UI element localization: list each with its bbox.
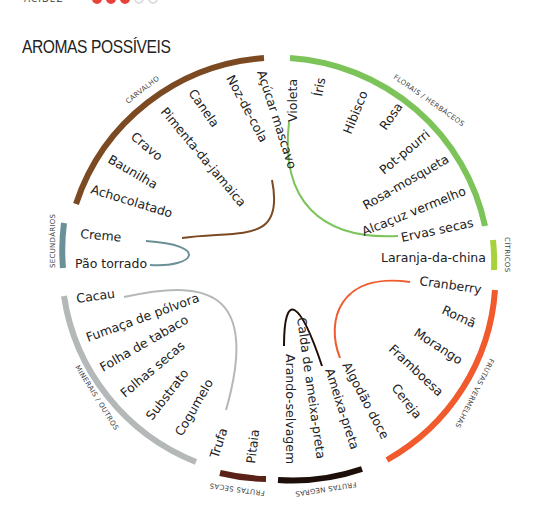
- aroma-label: Cravo: [128, 129, 166, 164]
- aroma-label: Arando-selvagem: [283, 354, 298, 464]
- aroma-label: Laranja-da-china: [381, 250, 486, 265]
- aroma-label: Cranberry: [419, 273, 484, 297]
- aroma-wheel: Açúcar mascavo Noz-de-cola Canela Piment…: [0, 0, 544, 520]
- category-label-minerais: MINERAIS / OUTROS: [73, 364, 120, 432]
- aroma-label: Pitaia: [243, 428, 262, 464]
- category-label-secundarios: SECUNDÁRIOS: [48, 213, 57, 268]
- aroma-label: Morango: [411, 325, 465, 367]
- aroma-label: Cacau: [75, 286, 116, 306]
- loop-secundarios: [146, 241, 189, 265]
- aroma-label: Cereja: [389, 381, 426, 422]
- arc-frutas-secas: [220, 473, 266, 479]
- aroma-label: Íris: [310, 76, 328, 97]
- aroma-label: Canela: [186, 86, 223, 130]
- aroma-label: Trufa: [206, 426, 230, 461]
- aroma-label: Rosa: [376, 100, 405, 133]
- aroma-label: Pão torrado: [75, 256, 147, 271]
- category-label-carvalho: CARVALHO: [124, 74, 161, 105]
- arc-frutas-negras: [278, 469, 362, 480]
- aroma-label: Creme: [80, 226, 123, 245]
- aroma-label: Violeta: [285, 79, 300, 122]
- aroma-label: Calda de ameixa-preta: [294, 316, 329, 459]
- aroma-label: Achocolatado: [89, 182, 174, 221]
- category-label-frutas-secas: FRUTAS SECAS: [209, 481, 266, 497]
- arc-secundarios: [62, 223, 64, 268]
- aroma-label: Hibisco: [340, 88, 371, 136]
- category-label-citricos: CÍTRICOS: [503, 237, 512, 273]
- arc-citricos: [493, 240, 494, 270]
- aroma-label: Romã: [440, 302, 479, 331]
